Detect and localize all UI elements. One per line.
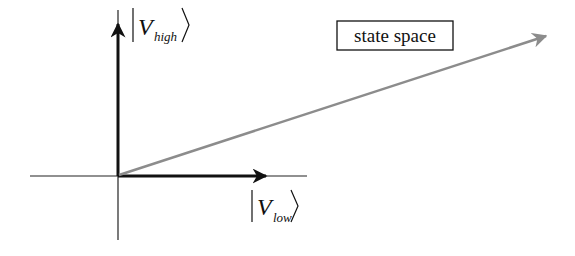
ket-symbol: V [257, 194, 274, 220]
ket-label-low: V low [252, 190, 298, 225]
state-space-label: state space [354, 25, 436, 46]
ket-symbol: V [138, 14, 155, 40]
ket-subscript: high [154, 29, 177, 44]
ket-angle-icon [291, 190, 298, 222]
state-space-box: state space [337, 21, 453, 50]
state-vector [119, 36, 546, 175]
state-space-diagram: V high V low state space [0, 0, 575, 256]
ket-angle-icon [182, 8, 189, 42]
ket-subscript: low [273, 210, 292, 225]
ket-label-high: V high [133, 8, 189, 44]
